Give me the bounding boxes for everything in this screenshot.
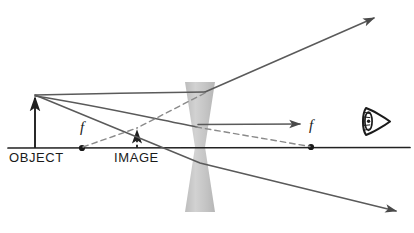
focal-point-left-label: f xyxy=(80,119,84,136)
optics-diagram-canvas xyxy=(0,0,414,233)
focal-point-left-dot xyxy=(79,145,85,151)
focal-point-right-label: f xyxy=(309,117,313,134)
ray-parallel-incident xyxy=(35,92,205,95)
ray-refracted-horizontal xyxy=(198,124,300,125)
ray-refracted-upward xyxy=(205,18,374,92)
image-label: IMAGE xyxy=(114,150,159,165)
ray-through-lens-center xyxy=(35,95,396,211)
eye-icon xyxy=(363,108,390,135)
object-label: OBJECT xyxy=(9,150,64,165)
ray-diagram-figure: OBJECT IMAGE f f xyxy=(0,0,414,233)
virtual-ray-from-left-focus xyxy=(83,128,137,147)
principal-axis xyxy=(8,148,410,149)
virtual-ray-to-right-focus xyxy=(196,127,310,147)
ray-incident-secondary xyxy=(35,96,197,127)
